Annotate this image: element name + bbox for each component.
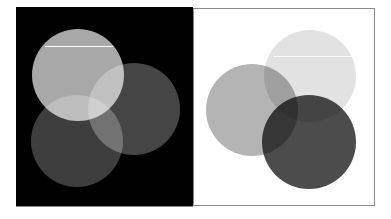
circle-bottom bbox=[262, 95, 356, 189]
highlight-line bbox=[45, 46, 113, 47]
additive-mixing-panel bbox=[16, 7, 193, 207]
subtractive-mixing-panel bbox=[193, 8, 375, 206]
circle-bottom bbox=[31, 95, 123, 187]
highlight-line bbox=[273, 56, 353, 57]
